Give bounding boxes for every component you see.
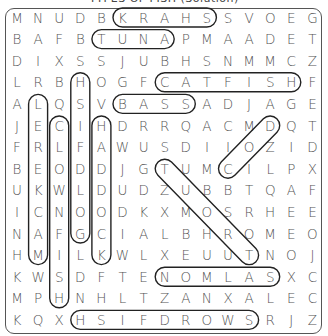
grid-letter[interactable]: T (139, 290, 147, 306)
grid-letter[interactable]: W (221, 312, 234, 328)
grid-letter[interactable]: F (140, 74, 148, 90)
grid-letter[interactable]: Z (160, 290, 169, 306)
grid-letter[interactable]: I (289, 139, 293, 155)
grid-letter[interactable]: N (12, 226, 22, 242)
grid-letter[interactable]: E (287, 290, 296, 306)
grid-letter[interactable]: B (13, 31, 22, 47)
grid-letter[interactable]: A (244, 290, 253, 306)
grid-letter[interactable]: X (223, 290, 232, 306)
grid-letter[interactable]: B (160, 53, 169, 69)
grid-letter[interactable]: S (266, 269, 275, 285)
grid-letter[interactable]: G (75, 226, 85, 242)
grid-letter[interactable]: F (55, 226, 63, 242)
grid-letter[interactable]: X (160, 204, 169, 220)
grid-letter[interactable]: A (287, 182, 296, 198)
grid-letter[interactable]: H (75, 312, 85, 328)
grid-letter[interactable]: G (286, 96, 296, 112)
grid-letter[interactable]: V (97, 96, 106, 112)
grid-letter[interactable]: K (34, 182, 43, 198)
grid-letter[interactable]: L (224, 269, 232, 285)
grid-letter[interactable]: Q (54, 96, 65, 112)
grid-letter[interactable]: R (223, 226, 232, 242)
grid-letter[interactable]: R (160, 118, 169, 134)
grid-letter[interactable]: D (223, 96, 233, 112)
grid-letter[interactable]: C (54, 118, 63, 134)
grid-letter[interactable]: F (55, 31, 63, 47)
grid-letter[interactable]: L (77, 247, 85, 263)
grid-letter[interactable]: D (75, 161, 85, 177)
grid-letter[interactable]: I (121, 226, 125, 242)
grid-letter[interactable]: W (116, 139, 129, 155)
grid-letter[interactable]: A (202, 118, 211, 134)
grid-letter[interactable]: C (287, 53, 296, 69)
grid-letter[interactable]: M (264, 53, 276, 69)
grid-letter[interactable]: E (139, 269, 148, 285)
grid-letter[interactable]: L (119, 290, 127, 306)
grid-letter[interactable]: E (287, 204, 296, 220)
grid-letter[interactable]: T (97, 31, 105, 47)
grid-letter[interactable]: Z (308, 53, 317, 69)
grid-letter[interactable]: A (181, 74, 190, 90)
grid-letter[interactable]: V (244, 10, 253, 26)
grid-letter[interactable]: L (161, 226, 169, 242)
grid-letter[interactable]: Q (180, 118, 191, 134)
grid-letter[interactable]: U (202, 247, 212, 263)
grid-letter[interactable]: D (181, 139, 191, 155)
grid-letter[interactable]: L (77, 182, 85, 198)
grid-letter[interactable]: S (55, 269, 64, 285)
grid-letter[interactable]: A (202, 96, 211, 112)
grid-letter[interactable]: C (33, 204, 42, 220)
grid-letter[interactable]: U (181, 182, 191, 198)
grid-letter[interactable]: S (97, 53, 106, 69)
grid-letter[interactable]: B (13, 161, 22, 177)
grid-letter[interactable]: F (309, 74, 317, 90)
grid-letter[interactable]: O (96, 74, 107, 90)
grid-letter[interactable]: F (76, 139, 84, 155)
grid-letter[interactable]: B (118, 96, 127, 112)
grid-letter[interactable]: O (265, 10, 276, 26)
grid-letter[interactable]: I (15, 204, 19, 220)
grid-letter[interactable]: M (11, 10, 23, 26)
grid-letter[interactable]: U (118, 31, 128, 47)
grid-letter[interactable]: D (75, 10, 85, 26)
grid-letter[interactable]: O (75, 204, 86, 220)
grid-letter[interactable]: S (203, 10, 212, 26)
grid-letter[interactable]: D (265, 118, 275, 134)
grid-letter[interactable]: X (160, 247, 169, 263)
grid-letter[interactable]: L (34, 96, 42, 112)
grid-letter[interactable]: I (57, 247, 61, 263)
grid-letter[interactable]: R (33, 139, 42, 155)
grid-letter[interactable]: L (140, 247, 148, 263)
grid-letter[interactable]: O (180, 269, 191, 285)
grid-letter[interactable]: F (140, 312, 148, 328)
grid-letter[interactable]: S (182, 96, 191, 112)
grid-letter[interactable]: D (96, 161, 106, 177)
grid-letter[interactable]: P (287, 161, 295, 177)
grid-letter[interactable]: N (160, 269, 170, 285)
grid-letter[interactable]: N (75, 290, 85, 306)
grid-letter[interactable]: A (97, 139, 106, 155)
grid-letter[interactable]: J (121, 161, 125, 177)
grid-letter[interactable]: G (138, 161, 148, 177)
grid-letter[interactable]: E (308, 96, 317, 112)
grid-letter[interactable]: Q (286, 118, 297, 134)
grid-letter[interactable]: S (76, 53, 85, 69)
grid-letter[interactable]: O (244, 139, 255, 155)
grid-letter[interactable]: N (223, 53, 233, 69)
grid-letter[interactable]: A (33, 31, 42, 47)
grid-letter[interactable]: S (76, 96, 85, 112)
grid-letter[interactable]: G (117, 74, 127, 90)
grid-letter[interactable]: O (54, 161, 65, 177)
grid-letter[interactable]: O (202, 204, 213, 220)
grid-letter[interactable]: B (97, 10, 106, 26)
grid-letter[interactable]: J (247, 96, 251, 112)
grid-letter[interactable]: T (118, 269, 126, 285)
grid-letter[interactable]: O (202, 312, 213, 328)
grid-letter[interactable]: K (118, 10, 127, 26)
grid-letter[interactable]: D (96, 182, 106, 198)
grid-letter[interactable]: E (34, 161, 43, 177)
grid-letter[interactable]: H (202, 226, 212, 242)
grid-letter[interactable]: P (182, 31, 190, 47)
grid-letter[interactable]: H (54, 290, 64, 306)
grid-letter[interactable]: X (308, 161, 317, 177)
